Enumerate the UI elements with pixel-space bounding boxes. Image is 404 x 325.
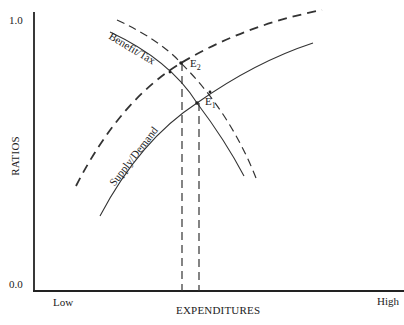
e1-label: E1 — [205, 95, 216, 110]
e2-letter: E — [190, 57, 197, 69]
cross-point-a — [169, 71, 172, 74]
e2-point — [179, 61, 183, 65]
y-axis-title: RATIOS — [9, 136, 21, 176]
e1-letter: E — [205, 95, 212, 107]
y-tick-top: 1.0 — [9, 14, 23, 26]
supply-demand-curve — [100, 43, 313, 216]
e1-point — [195, 101, 199, 105]
e2-label: E2 — [190, 57, 201, 72]
chart-canvas — [0, 0, 404, 325]
y-tick-bottom: 0.0 — [9, 278, 23, 290]
x-axis-title: EXPENDITURES — [176, 304, 260, 316]
e1-subscript: 1 — [212, 101, 216, 110]
x-tick-high: High — [377, 295, 399, 307]
cross-point-b — [209, 91, 212, 94]
x-tick-low: Low — [53, 296, 73, 308]
e2-subscript: 2 — [197, 63, 201, 72]
